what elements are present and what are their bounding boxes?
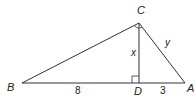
vertex-label-C: C bbox=[137, 4, 145, 16]
right-angle-marker-D bbox=[132, 76, 139, 83]
vertex-label-B: B bbox=[7, 81, 14, 93]
vertex-label-D: D bbox=[134, 85, 142, 97]
side-CA bbox=[139, 23, 185, 83]
segment-label-CD: x bbox=[130, 47, 137, 58]
triangle-diagram: C B D A 8 3 x y bbox=[0, 0, 196, 99]
side-BC bbox=[22, 23, 139, 83]
segment-label-DA: 3 bbox=[160, 85, 166, 96]
segment-label-BD: 8 bbox=[75, 85, 81, 96]
segment-label-CA: y bbox=[164, 37, 171, 48]
vertex-label-A: A bbox=[186, 82, 194, 94]
